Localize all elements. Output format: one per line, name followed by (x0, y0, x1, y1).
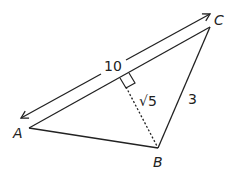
side-bc (158, 27, 210, 148)
vertex-label-b: B (153, 154, 163, 170)
length-label-altitude: √5 (139, 93, 157, 109)
vertex-label-c: C (214, 12, 224, 28)
side-ac (29, 27, 210, 128)
triangle-abc (29, 27, 210, 148)
length-label-bc: 3 (188, 91, 197, 107)
length-label-ac: 10 (104, 58, 122, 74)
side-ab (29, 128, 158, 148)
triangle-diagram: 10 √5 3 A B C (0, 0, 234, 175)
vertex-label-a: A (12, 125, 23, 141)
